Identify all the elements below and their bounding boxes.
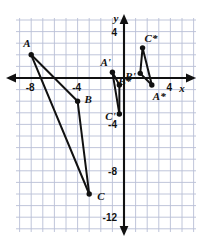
y-tick-label: 4 [111,27,117,38]
vertex-label: A' [99,56,110,68]
vertex-point [110,70,115,75]
grid-lines [16,18,196,232]
x-axis-arrow-right [186,74,196,83]
y-tick-label: -8 [108,166,117,177]
vertex-point [149,82,154,87]
coordinate-plane-figure: -8-444-4-8-12 ABCA'B'C'C*B*A* x y [0,0,200,238]
vertex-label: B [84,93,92,105]
x-tick-label: 4 [167,82,173,93]
vertex-point [117,111,122,116]
vertex-label: C* [145,32,158,44]
vertex-label: B* [117,75,131,87]
vertex-label: C' [105,110,115,122]
y-axis-arrow-top [120,14,129,24]
coordinate-plane-svg: -8-444-4-8-12 ABCA'B'C'C*B*A* x y [0,0,200,238]
x-tick-label: -4 [72,82,81,93]
x-axis-label: x [178,82,185,94]
vertex-point [87,191,92,196]
vertex-point [75,99,80,104]
vertex-label: A* [152,90,166,102]
y-axis-arrow-bottom [120,226,129,236]
y-tick-label: -12 [103,212,118,223]
vertex-point [138,71,143,76]
vertex-label: A [22,37,30,49]
x-tick-label: -8 [26,82,35,93]
y-axis-label: y [112,12,119,24]
vertex-label: C [97,190,105,202]
triangle-edge [140,48,142,74]
vertex-point [29,52,34,57]
vertex-point [140,45,145,50]
x-axis-arrow-left [6,74,16,83]
